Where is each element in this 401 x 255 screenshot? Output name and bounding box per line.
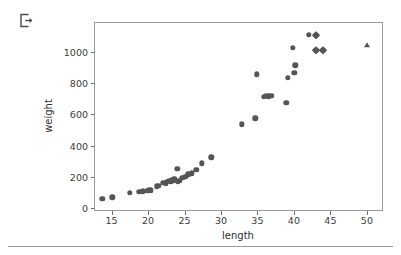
y-tick-label: 600	[70, 109, 88, 120]
x-tick-label: 40	[288, 215, 300, 226]
x-axis-tick	[148, 211, 149, 215]
data-point-circle	[292, 63, 297, 68]
x-axis-tick	[330, 211, 331, 215]
y-tick-label: 0	[82, 203, 88, 214]
data-point-circle	[254, 72, 259, 77]
y-tick-label: 200	[70, 171, 88, 182]
data-point-circle	[148, 188, 153, 193]
x-tick-label: 20	[142, 215, 154, 226]
x-tick-label: 30	[215, 215, 227, 226]
data-point-circle	[252, 115, 257, 120]
y-tick-label: 1000	[64, 47, 88, 58]
data-point-circle	[199, 161, 204, 166]
x-axis-label: length	[222, 230, 254, 241]
data-point-circle	[268, 93, 273, 98]
x-tick-label: 15	[105, 215, 117, 226]
data-point-triangle	[364, 43, 370, 48]
x-axis-tick	[112, 211, 113, 215]
data-point-circle	[209, 154, 214, 159]
data-point-circle	[175, 166, 180, 171]
data-point-circle	[239, 122, 244, 127]
y-tick-label: 400	[70, 140, 88, 151]
data-point-circle	[290, 45, 295, 50]
x-axis-tick	[185, 211, 186, 215]
x-axis-tick	[367, 211, 368, 215]
x-axis-tick	[257, 211, 258, 215]
screenshot-root: 0 200 400 600 800 1000 15 20 25 30 35 40…	[0, 0, 401, 255]
data-point-diamond	[312, 31, 320, 39]
scatter-plot-figure: 0 200 400 600 800 1000 15 20 25 30 35 40…	[0, 0, 401, 255]
plot-area	[95, 23, 382, 210]
data-point-diamond	[319, 46, 327, 54]
data-point-circle	[127, 190, 132, 195]
data-point-circle	[193, 167, 198, 172]
data-point-circle	[285, 75, 290, 80]
data-point-circle	[110, 195, 115, 200]
x-tick-label: 50	[361, 215, 373, 226]
y-axis-label: weight	[43, 99, 54, 133]
x-tick-label: 25	[178, 215, 190, 226]
data-point-circle	[292, 70, 297, 75]
bottom-divider	[8, 246, 393, 247]
axes-frame	[94, 22, 383, 211]
x-tick-label: 35	[251, 215, 263, 226]
y-tick-label: 800	[70, 78, 88, 89]
x-tick-label: 45	[324, 215, 336, 226]
data-point-circle	[284, 100, 289, 105]
data-point-circle	[100, 196, 105, 201]
x-axis-tick	[294, 211, 295, 215]
x-axis-tick	[221, 211, 222, 215]
